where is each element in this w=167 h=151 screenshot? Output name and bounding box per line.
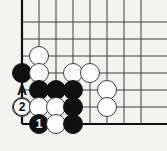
go-board-diagram: A21	[0, 0, 167, 151]
black-stone-c4r7	[63, 114, 83, 134]
white-stone-move-2-c1r6-move-number: 2	[19, 101, 26, 113]
stone-layer: A21	[0, 0, 167, 151]
white-stone-c6r6	[97, 97, 117, 117]
black-stone-move-1-c2r7-move-number: 1	[36, 118, 43, 130]
white-stone-c5r4	[80, 63, 100, 83]
